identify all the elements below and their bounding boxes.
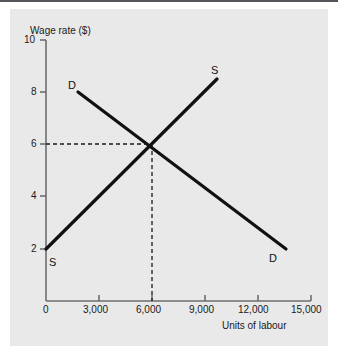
supply-curve [46,79,217,249]
x-axis-ticks [99,295,311,301]
supply-curve-label-top: S [211,64,218,76]
y-tick-label-8: 8 [31,86,37,97]
y-axis-title: Wage rate ($) [30,25,91,36]
x-tick-label-0: 0 [43,304,49,315]
x-tick-label-12000: 12,000 [238,304,269,315]
x-tick-label-6000: 6,000 [136,304,161,315]
x-tick-label-3000: 3,000 [83,304,108,315]
demand-curve-label-top: D [68,79,76,91]
supply-curve-label-bottom: S [49,256,56,268]
top-edge-rule [0,0,338,2]
x-tick-label-9000: 9,000 [189,304,214,315]
demand-curve-label-bottom: D [269,252,277,264]
y-tick-label-6: 6 [31,138,37,149]
supply-demand-plot [10,9,328,346]
y-axis-ticks [40,40,46,249]
x-tick-label-15000: 15,000 [291,304,322,315]
figure-container: Wage rate ($) 10 8 6 4 2 0 3,000 6,000 9… [0,0,338,358]
x-axis-title: Units of labour [222,320,286,331]
y-tick-label-10: 10 [24,34,35,45]
y-tick-label-2: 2 [31,243,37,254]
y-tick-label-4: 4 [31,190,37,201]
